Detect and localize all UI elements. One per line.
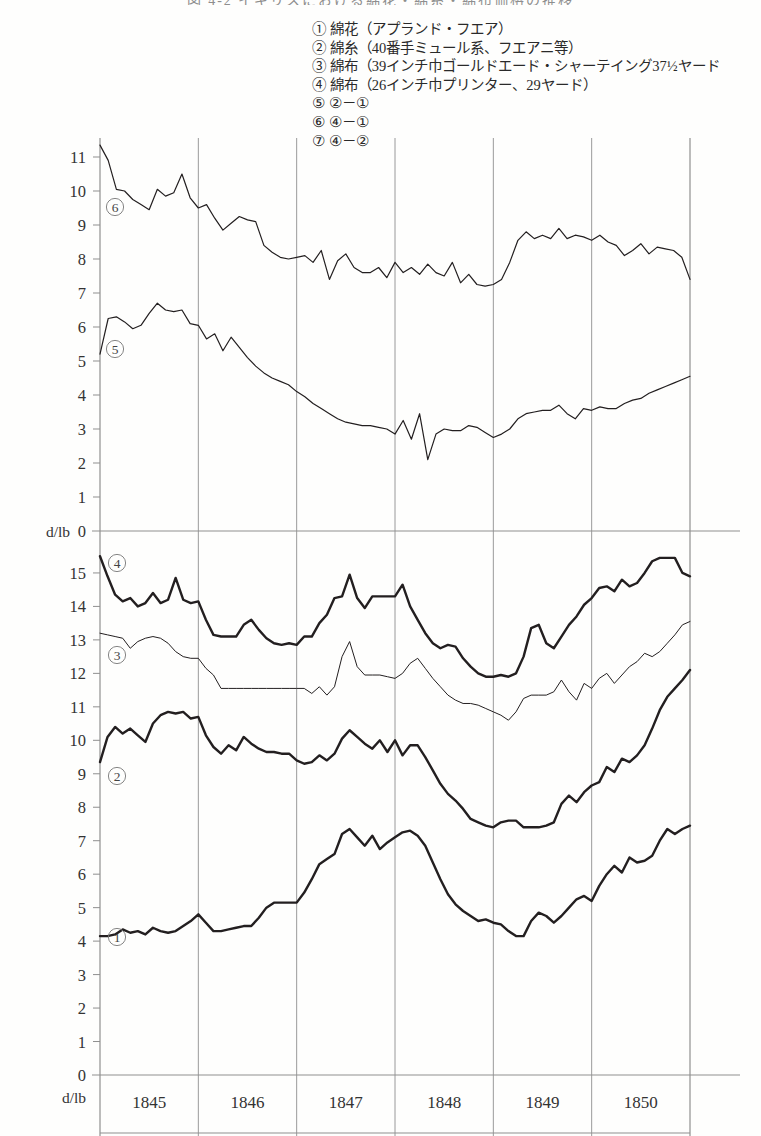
ytick-lower-15: 15 xyxy=(70,564,87,583)
xtick-1849: 1849 xyxy=(526,1093,560,1112)
ytick-upper-0: 0 xyxy=(78,522,86,541)
series-marker-6: 6 xyxy=(112,200,119,215)
ytick-lower-14: 14 xyxy=(70,597,87,616)
ytick-upper-10: 10 xyxy=(70,182,87,201)
xtick-1848: 1848 xyxy=(427,1093,461,1112)
ytick-upper-1: 1 xyxy=(78,488,86,507)
ytick-upper-6: 6 xyxy=(78,318,86,337)
ytick-lower-6: 6 xyxy=(78,865,86,884)
ytick-lower-8: 8 xyxy=(78,798,86,817)
ytick-upper-8: 8 xyxy=(78,250,86,269)
series-marker-3: 3 xyxy=(114,648,121,663)
ytick-lower-2: 2 xyxy=(78,999,86,1018)
ylabel-upper: d/lb xyxy=(46,523,70,540)
ylabel-lower: d/lb xyxy=(62,1089,86,1106)
ytick-lower-1: 1 xyxy=(78,1033,86,1052)
ytick-upper-7: 7 xyxy=(78,284,86,303)
xtick-1846: 1846 xyxy=(231,1093,265,1112)
ytick-lower-11: 11 xyxy=(70,698,86,717)
ytick-upper-9: 9 xyxy=(78,216,86,235)
series-marker-2: 2 xyxy=(114,769,121,784)
ytick-lower-3: 3 xyxy=(78,966,86,985)
ytick-lower-12: 12 xyxy=(70,664,87,683)
series-marker-4: 4 xyxy=(114,556,121,571)
ytick-lower-13: 13 xyxy=(70,631,87,650)
ytick-lower-5: 5 xyxy=(78,899,86,918)
ytick-upper-11: 11 xyxy=(70,148,86,167)
ytick-upper-4: 4 xyxy=(78,386,86,405)
ytick-upper-3: 3 xyxy=(78,420,86,439)
xtick-1850: 1850 xyxy=(624,1093,658,1112)
ytick-upper-2: 2 xyxy=(78,454,86,473)
ytick-upper-5: 5 xyxy=(78,352,86,371)
chart-page: 図 4-2 イギリスにおける綿花・綿糸・綿布価格の推移 ① 綿花（アプランド・フ… xyxy=(0,0,761,1136)
ytick-lower-9: 9 xyxy=(78,765,86,784)
xtick-1847: 1847 xyxy=(329,1093,364,1112)
series-marker-1: 1 xyxy=(114,930,121,945)
ytick-lower-4: 4 xyxy=(78,932,86,951)
price-chart: 01234567891011d/lb0123456789101112131415… xyxy=(0,0,761,1136)
ytick-lower-0: 0 xyxy=(78,1066,86,1085)
ytick-lower-7: 7 xyxy=(78,832,86,851)
series-marker-5: 5 xyxy=(112,342,119,357)
ytick-lower-10: 10 xyxy=(70,731,87,750)
xtick-1845: 1845 xyxy=(132,1093,166,1112)
